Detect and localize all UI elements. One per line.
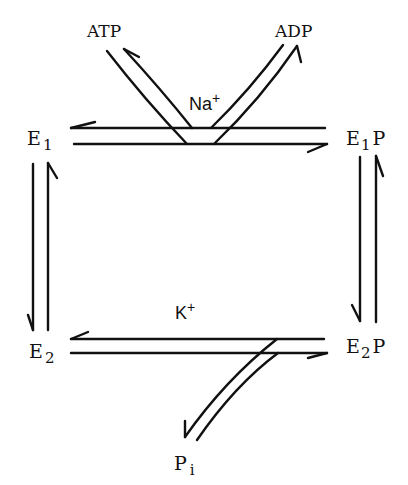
state-e1p-sub: 1 xyxy=(361,136,371,154)
ion-k-charge: + xyxy=(187,299,195,315)
state-e2-sub: 2 xyxy=(45,349,55,367)
state-e1: E1 xyxy=(27,127,52,154)
state-e1-base: E xyxy=(27,127,41,149)
substrate-atp: ATP xyxy=(86,21,121,41)
state-e1p: E1P xyxy=(346,127,385,154)
ion-na-charge: + xyxy=(212,90,220,106)
state-e1p-base: E xyxy=(346,127,360,149)
adp-branch-inner xyxy=(211,45,283,128)
state-e2: E2 xyxy=(29,340,54,367)
arrowhead-up-icon xyxy=(48,163,57,178)
substrate-pi: Pi xyxy=(174,452,195,479)
ion-na-base: Na xyxy=(189,94,213,114)
transition-e2-e1 xyxy=(28,163,57,330)
transition-e2p-e2 xyxy=(71,332,327,440)
reaction-cycle-diagram: ATP ADP Na+ E1 E1P K+ E2 E2P Pi xyxy=(0,0,408,485)
ion-k-label: K+ xyxy=(175,299,195,323)
substrate-adp: ADP xyxy=(274,21,312,41)
ion-k-base: K xyxy=(175,303,187,323)
pi-branch-inner xyxy=(197,353,278,440)
state-e2p-base: E xyxy=(346,335,360,357)
state-e1p-suffix: P xyxy=(372,127,385,149)
adp-branch-outer-arrow xyxy=(214,46,297,144)
ion-na-label: Na+ xyxy=(189,90,220,114)
substrate-pi-sub: i xyxy=(190,461,195,479)
atp-branch-inner-arrow xyxy=(124,49,192,128)
state-e1-sub: 1 xyxy=(43,136,53,154)
transition-e1p-e2p xyxy=(352,156,383,322)
substrate-pi-base: P xyxy=(174,452,187,474)
state-e2-base: E xyxy=(29,340,43,362)
state-e2p-suffix: P xyxy=(372,335,385,357)
state-e2p-sub: 2 xyxy=(361,344,371,362)
state-e2p: E2P xyxy=(346,335,385,362)
atp-branch-outer xyxy=(107,51,187,144)
arrowhead-adp-icon xyxy=(297,46,301,62)
